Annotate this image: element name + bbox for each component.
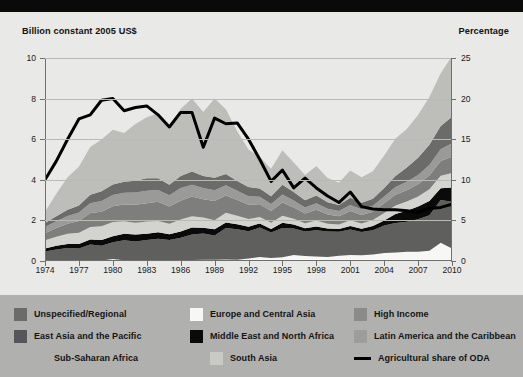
legend-swatch bbox=[14, 330, 27, 343]
y-axis-right-tick-label: 15 bbox=[461, 134, 471, 144]
legend-swatch bbox=[14, 308, 27, 321]
right-axis-title: Percentage bbox=[458, 26, 509, 36]
legend-item[interactable]: East Asia and the Pacific bbox=[14, 330, 190, 343]
legend-item[interactable]: Sub-Saharan Africa bbox=[14, 352, 190, 365]
gridline bbox=[45, 58, 452, 59]
legend-item[interactable]: Agricultural share of ODA bbox=[354, 353, 509, 363]
y-axis-right-tick-label: 20 bbox=[461, 94, 471, 104]
x-axis-tick-label: 1986 bbox=[171, 265, 190, 275]
y-axis-right-tick bbox=[451, 139, 456, 140]
y-axis-right-tick-label: 5 bbox=[461, 215, 466, 225]
y-axis-left-tick bbox=[40, 99, 45, 100]
y-axis-left-tick bbox=[40, 58, 45, 59]
x-axis-tick-label: 1998 bbox=[307, 265, 326, 275]
y-axis-left-line bbox=[45, 58, 46, 261]
stacked-area-svg bbox=[45, 58, 452, 261]
y-axis-right-tick-label: 10 bbox=[461, 175, 471, 185]
y-axis-right-tick bbox=[451, 58, 456, 59]
legend-item[interactable]: High Income bbox=[354, 308, 509, 321]
legend-swatch bbox=[210, 352, 223, 365]
legend-swatch bbox=[190, 308, 203, 321]
y-axis-right-tick bbox=[451, 220, 456, 221]
legend-swatch bbox=[190, 330, 203, 343]
legend-swatch bbox=[354, 308, 367, 321]
legend-label: East Asia and the Pacific bbox=[34, 331, 141, 341]
legend-swatch bbox=[354, 330, 367, 343]
x-axis-tick-label: 1977 bbox=[69, 265, 88, 275]
chart-legend: Unspecified/RegionalEurope and Central A… bbox=[0, 295, 523, 377]
legend-label: Europe and Central Asia bbox=[210, 309, 315, 319]
plot-area: 0246810051015202519741977198019831986198… bbox=[45, 58, 452, 261]
legend-label: Agricultural share of ODA bbox=[378, 353, 490, 363]
x-axis-tick-label: 1980 bbox=[103, 265, 122, 275]
legend-item[interactable]: Unspecified/Regional bbox=[14, 308, 190, 321]
y-axis-left-tick-label: 6 bbox=[31, 134, 36, 144]
gridline bbox=[45, 99, 452, 100]
legend-label: Latin America and the Caribbean bbox=[374, 331, 516, 341]
x-axis-tick-label: 2010 bbox=[442, 265, 461, 275]
y-axis-right-line bbox=[451, 58, 452, 261]
legend-label: Middle East and North Africa bbox=[210, 331, 334, 341]
y-axis-left-tick-label: 8 bbox=[31, 94, 36, 104]
y-axis-left-tick-label: 4 bbox=[31, 175, 36, 185]
gridline bbox=[45, 139, 452, 140]
legend-label: South Asia bbox=[230, 353, 277, 363]
x-axis-tick-label: 1974 bbox=[35, 265, 54, 275]
x-axis-tick-label: 2004 bbox=[375, 265, 394, 275]
y-axis-right-tick bbox=[451, 180, 456, 181]
x-axis-tick-label: 1992 bbox=[239, 265, 258, 275]
x-axis-tick-label: 1989 bbox=[205, 265, 224, 275]
legend-item[interactable]: Latin America and the Caribbean bbox=[354, 330, 509, 343]
figure-area: Billion constant 2005 US$ Percentage 024… bbox=[0, 12, 523, 295]
y-axis-right-tick-label: 0 bbox=[461, 256, 466, 266]
legend-item[interactable]: South Asia bbox=[190, 352, 354, 365]
legend-item[interactable]: Europe and Central Asia bbox=[190, 308, 354, 321]
x-axis-tick-label: 1995 bbox=[273, 265, 292, 275]
x-axis-tick-label: 1983 bbox=[137, 265, 156, 275]
x-axis-tick-label: 2007 bbox=[409, 265, 428, 275]
legend-item[interactable]: Middle East and North Africa bbox=[190, 330, 354, 343]
y-axis-right-tick-label: 25 bbox=[461, 53, 471, 63]
legend-label: Sub-Saharan Africa bbox=[54, 353, 138, 363]
gridline bbox=[45, 220, 452, 221]
y-axis-left-tick bbox=[40, 180, 45, 181]
gridline bbox=[45, 180, 452, 181]
y-axis-right-tick bbox=[451, 99, 456, 100]
x-axis-tick-label: 2001 bbox=[341, 265, 360, 275]
y-axis-left-tick-label: 10 bbox=[26, 53, 36, 63]
y-axis-left-tick bbox=[40, 139, 45, 140]
chart-page: Billion constant 2005 US$ Percentage 024… bbox=[0, 0, 523, 377]
left-axis-title: Billion constant 2005 US$ bbox=[22, 26, 137, 36]
y-axis-left-tick bbox=[40, 220, 45, 221]
legend-swatch bbox=[34, 352, 47, 365]
legend-label: High Income bbox=[374, 309, 429, 319]
legend-label: Unspecified/Regional bbox=[34, 309, 127, 319]
top-black-band bbox=[0, 0, 523, 12]
legend-line-marker bbox=[354, 357, 371, 360]
y-axis-left-tick-label: 2 bbox=[31, 215, 36, 225]
